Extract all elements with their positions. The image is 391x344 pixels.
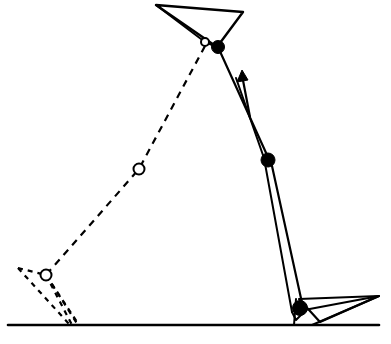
dashed-thigh-link <box>46 46 205 275</box>
velocity-arrow-head <box>237 70 248 82</box>
upper-body-triangle <box>156 5 243 47</box>
previous-pose-group <box>18 46 205 325</box>
current-pose-group <box>156 5 379 325</box>
previous-ankle-open-circle <box>41 270 52 281</box>
previous-knee-open-circle <box>134 164 145 175</box>
hip-joint <box>212 41 225 54</box>
diagram-canvas <box>0 0 391 344</box>
ankle-joint <box>293 301 308 316</box>
leg-linkage-figure <box>0 0 391 344</box>
shank-outer-edge <box>218 47 304 312</box>
dashed-foot-edge-inner <box>46 275 72 325</box>
foot-triangle-inner-edge <box>299 296 379 325</box>
hip-pivot-open-circle <box>201 38 209 46</box>
shank-inner-edge <box>236 78 292 312</box>
dashed-shank-link <box>46 275 79 325</box>
knee-joint <box>261 153 275 167</box>
